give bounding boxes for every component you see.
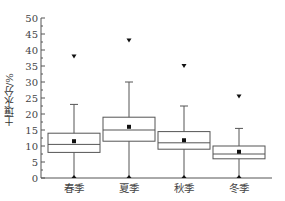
mean-marker (237, 150, 241, 154)
x-tick-label: 春季 (64, 182, 85, 194)
y-tick-label: 50 (25, 13, 38, 24)
mean-marker (127, 125, 131, 129)
x-tick-label: 冬季 (229, 182, 250, 194)
mean-marker (182, 138, 186, 142)
box-3: 秋季 (158, 64, 210, 194)
y-tick-label: 10 (25, 141, 38, 152)
y-tick-label: 45 (25, 29, 38, 40)
box-plot-chart: 05101520253035404550 春季夏季秋季冬季 (0, 0, 285, 201)
box-4: 冬季 (213, 94, 265, 194)
x-tick-label: 夏季 (119, 182, 140, 194)
outlier-marker (237, 94, 242, 98)
y-tick-label: 30 (25, 77, 38, 88)
y-tick-label: 25 (25, 93, 38, 104)
min-marker (72, 175, 77, 178)
boxes: 春季夏季秋季冬季 (48, 38, 265, 194)
box-1: 春季 (48, 54, 100, 194)
y-tick-label: 20 (25, 109, 38, 120)
min-marker (182, 175, 187, 178)
min-marker (127, 175, 132, 178)
y-tick-label: 0 (32, 173, 38, 184)
y-tick-label: 5 (32, 157, 38, 168)
outlier-marker (127, 38, 132, 42)
x-tick-label: 秋季 (174, 182, 195, 194)
y-tick-label: 35 (25, 61, 38, 72)
min-marker (237, 175, 242, 178)
outlier-marker (182, 64, 187, 68)
y-tick-label: 40 (25, 45, 38, 56)
y-tick-label: 15 (25, 125, 38, 136)
box-2: 夏季 (103, 38, 155, 194)
mean-marker (72, 139, 76, 143)
outlier-marker (72, 54, 77, 58)
iqr-box (103, 117, 155, 141)
